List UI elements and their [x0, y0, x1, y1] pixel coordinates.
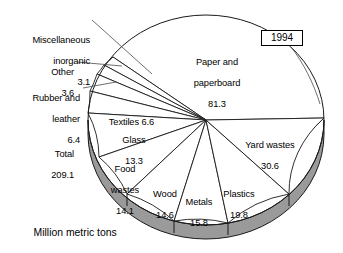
label-total-text: Total [55, 149, 74, 159]
label-plastics-line1: Plastics [223, 189, 254, 199]
label-paper-and-paperboard-line1: Paper and [196, 57, 238, 67]
label-yard-wastes-value: 30.6 [261, 161, 279, 171]
label-glass-line1: Glass [122, 135, 145, 145]
label-food-wastes-line1: Food [115, 164, 136, 174]
year-badge-text: 1994 [271, 32, 293, 43]
label-yard-wastes-line1: Yard wastes [245, 140, 294, 150]
year-badge: 1994 [261, 30, 303, 46]
label-rubber-and-leather-line2: leather [52, 114, 80, 124]
label-other-line1: Other [51, 67, 74, 77]
label-plastics-value: 19.8 [230, 210, 248, 220]
label-rubber-and-leather-line1: Rubber and [32, 93, 80, 103]
year-leader-line [291, 47, 320, 104]
label-total: Total 209.1 [8, 138, 74, 191]
label-miscellaneous-inorganic-line1: Miscellaneous [32, 35, 90, 45]
label-yard-wastes: Yard wastes 30.6 [228, 129, 302, 182]
units-caption-text: Million metric tons [34, 227, 117, 238]
label-food-wastes-line2: wastes [111, 185, 139, 195]
label-paper-and-paperboard: Paper and paperboard 81.3 [172, 46, 252, 120]
label-food-wastes-value: 14.1 [116, 206, 134, 216]
pie-chart-figure: Miscellaneous inorganic 3.1 Other 3.6 Ru… [0, 0, 343, 253]
label-total-value: 209.1 [51, 170, 74, 180]
units-caption: Million metric tons [22, 216, 117, 249]
label-paper-and-paperboard-value: 81.3 [208, 99, 226, 109]
label-plastics: Plastics 19.8 [206, 178, 262, 231]
label-paper-and-paperboard-line2: paperboard [194, 78, 241, 88]
